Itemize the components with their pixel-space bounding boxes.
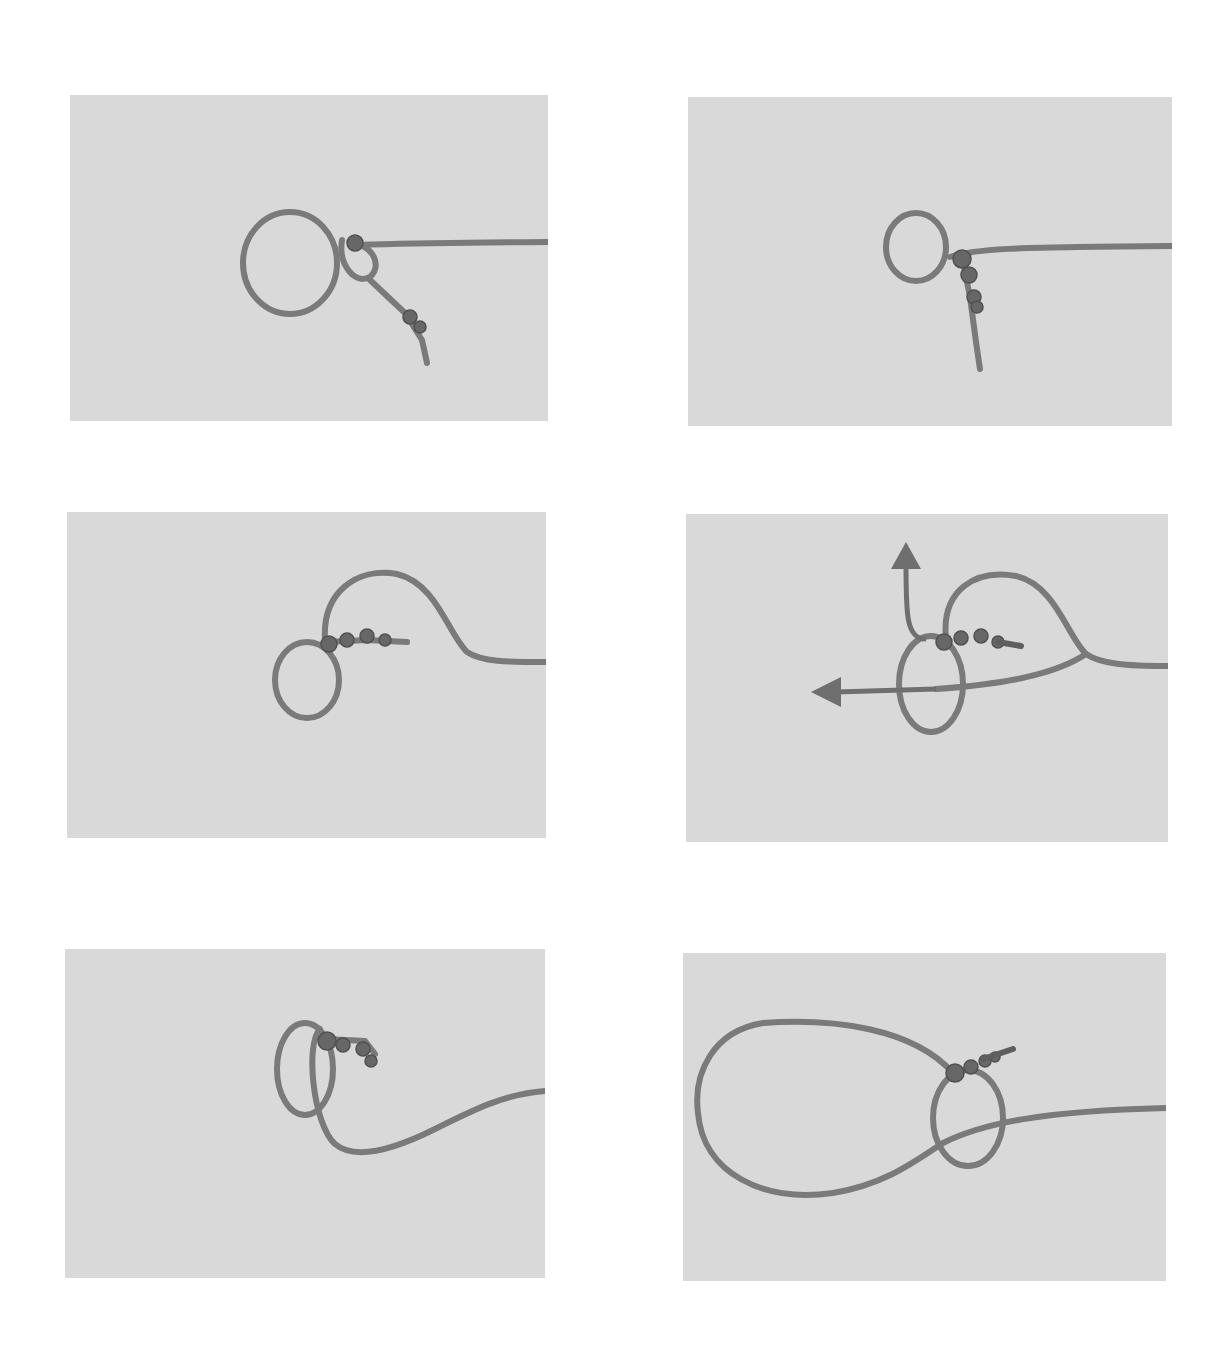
rope-illustration <box>686 514 1168 842</box>
knot-step-1-photo <box>70 95 548 421</box>
knot-step-6-photo <box>683 953 1166 1281</box>
rope-illustration <box>683 953 1166 1281</box>
rope-illustration <box>70 95 548 421</box>
rope-illustration <box>688 97 1172 426</box>
knot-step-4-photo <box>686 514 1168 842</box>
knot-step-5-photo <box>65 949 545 1278</box>
pull-up-arrow-line <box>906 564 926 639</box>
knot-step-2-photo <box>688 97 1172 426</box>
knot-step-3-photo <box>67 512 546 838</box>
arrow-up-icon <box>891 542 921 569</box>
pull-left-arrow-line <box>836 689 936 692</box>
arrow-left-icon <box>811 677 841 707</box>
rope-illustration <box>67 512 546 838</box>
rope-illustration <box>65 949 545 1278</box>
